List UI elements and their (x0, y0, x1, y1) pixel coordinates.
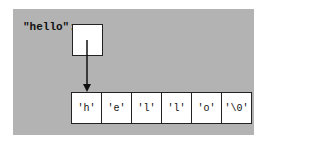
char-cell: 'e' (101, 92, 132, 124)
char-cell: 'o' (191, 92, 222, 124)
char-array: 'h' 'e' 'l' 'l' 'o' '\0' (71, 92, 252, 124)
char-cell: 'l' (131, 92, 162, 124)
char-cell: 'h' (71, 92, 102, 124)
char-cell: 'l' (161, 92, 192, 124)
char-cell: '\0' (221, 92, 252, 124)
